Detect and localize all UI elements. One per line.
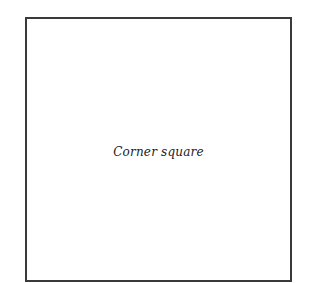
corner-square: Corner square [25, 17, 292, 282]
square-label: Corner square [27, 145, 290, 159]
